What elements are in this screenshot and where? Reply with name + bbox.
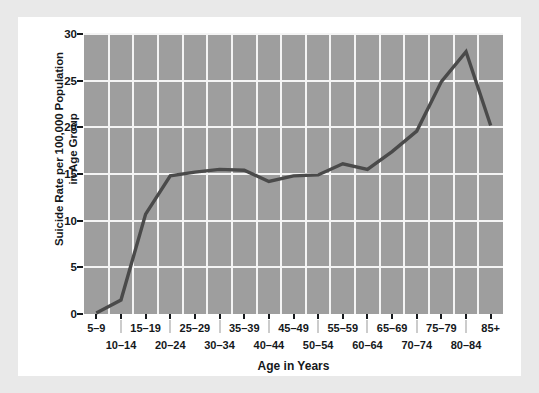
x-tick-mark	[243, 314, 245, 319]
x-tick-label: 5–9	[87, 322, 105, 334]
chart-card: Suicide Rate per 100,000 Population in A…	[18, 17, 521, 376]
figure-root: Suicide Rate per 100,000 Population in A…	[0, 0, 539, 393]
x-tick-mark	[120, 314, 122, 319]
x-tick-label: 55–59	[327, 322, 358, 334]
x-tick-label: 45–49	[278, 322, 309, 334]
y-tick-label: 30	[64, 28, 77, 40]
x-tick-mark	[268, 314, 270, 319]
x-tick-mark	[391, 314, 393, 319]
x-label-separator	[268, 320, 269, 333]
plot-area: 051015202530	[84, 34, 503, 314]
x-tick-label: 75–79	[426, 322, 457, 334]
y-tick-mark	[77, 33, 83, 35]
x-tick-label: 35–39	[229, 322, 260, 334]
x-label-separator	[416, 320, 417, 333]
x-tick-label: 50–54	[303, 339, 334, 351]
x-axis-title: Age in Years	[84, 359, 503, 373]
x-label-separator	[318, 320, 319, 333]
x-tick-mark	[219, 314, 221, 319]
x-tick-label: 60–64	[352, 339, 383, 351]
x-tick-label: 40–44	[254, 339, 285, 351]
x-tick-label: 20–24	[155, 339, 186, 351]
x-tick-mark	[293, 314, 295, 319]
x-tick-label: 80–84	[451, 339, 482, 351]
x-tick-mark	[194, 314, 196, 319]
x-label-separator	[466, 320, 467, 333]
data-series-line	[84, 34, 503, 314]
x-tick-mark	[440, 314, 442, 319]
x-label-separator	[219, 320, 220, 333]
x-tick-mark	[95, 314, 97, 319]
x-label-separator	[170, 320, 171, 333]
x-tick-mark	[465, 314, 467, 319]
y-tick-mark	[77, 126, 83, 128]
x-tick-mark	[366, 314, 368, 319]
x-tick-label: 85+	[481, 322, 500, 334]
x-label-separator	[367, 320, 368, 333]
x-tick-mark	[169, 314, 171, 319]
y-tick-label: 10	[64, 215, 77, 227]
y-tick-label: 20	[64, 121, 77, 133]
y-tick-label: 25	[64, 75, 77, 87]
y-tick-label: 15	[64, 168, 77, 180]
y-tick-mark	[77, 313, 83, 315]
y-axis-title: Suicide Rate per 100,000 Population in A…	[52, 23, 80, 275]
x-label-separator	[120, 320, 121, 333]
x-tick-label: 15–19	[130, 322, 161, 334]
y-tick-mark	[77, 173, 83, 175]
x-tick-mark	[342, 314, 344, 319]
x-tick-label: 10–14	[106, 339, 137, 351]
y-tick-mark	[77, 80, 83, 82]
x-tick-label: 70–74	[401, 339, 432, 351]
x-tick-mark	[416, 314, 418, 319]
x-tick-mark	[317, 314, 319, 319]
x-tick-mark	[145, 314, 147, 319]
x-tick-label: 65–69	[377, 322, 408, 334]
y-tick-mark	[77, 220, 83, 222]
y-tick-mark	[77, 266, 83, 268]
x-tick-mark	[490, 314, 492, 319]
x-tick-label: 25–29	[180, 322, 211, 334]
x-tick-label: 30–34	[204, 339, 235, 351]
